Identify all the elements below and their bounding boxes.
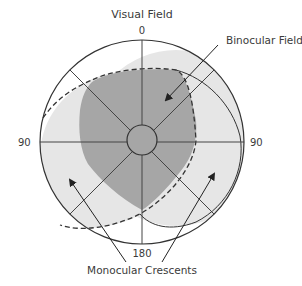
label-bottom-180: 180	[132, 248, 151, 259]
label-top-0: 0	[139, 25, 145, 36]
diagram-title: Visual Field	[111, 8, 173, 21]
visual-field-diagram: Visual Field 0 180 90 90 Binocular Field…	[0, 0, 302, 286]
label-right-90: 90	[250, 137, 263, 148]
fixation-circle	[127, 125, 157, 155]
label-binocular-field: Binocular Field	[226, 34, 302, 46]
label-left-90: 90	[18, 137, 31, 148]
label-monocular-crescents: Monocular Crescents	[87, 264, 197, 276]
